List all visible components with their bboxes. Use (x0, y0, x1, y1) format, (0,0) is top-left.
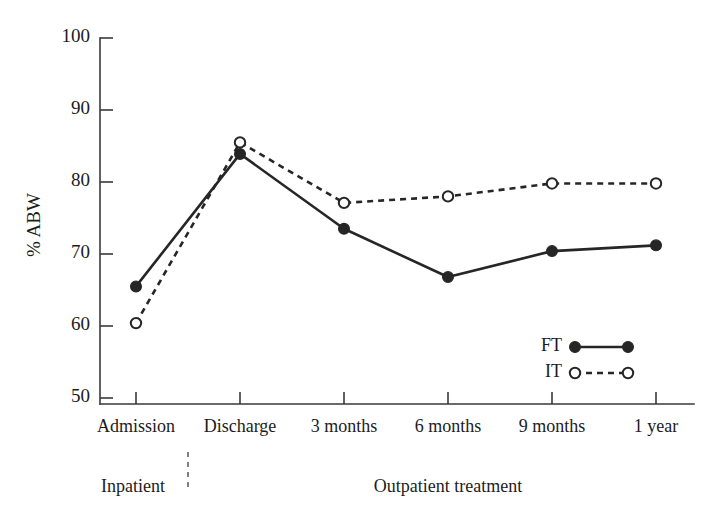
y-tick-label-70: 70 (71, 241, 90, 262)
legend-marker-ft-right (623, 342, 634, 353)
y-tick-label-60: 60 (71, 313, 90, 334)
chart-container: % ABW 100 90 80 70 60 50 Admission Disch… (0, 0, 701, 524)
x-tick-label-3-months: 3 months (311, 416, 378, 436)
x-tick-label-6-months: 6 months (415, 416, 482, 436)
x-tick-label-discharge: Discharge (204, 416, 277, 436)
data-point-it-1-year (651, 178, 661, 188)
data-point-ft-9-months (547, 246, 558, 257)
y-tick-label-100: 100 (62, 25, 91, 46)
y-tick-label-80: 80 (71, 169, 90, 190)
x-tick-label-9-months: 9 months (519, 416, 586, 436)
legend-marker-it-left (570, 368, 580, 378)
x-tick-label-admission: Admission (97, 416, 175, 436)
data-point-ft-admission (131, 281, 142, 292)
data-point-ft-6-months (443, 272, 454, 283)
phase-label-outpatient: Outpatient treatment (374, 476, 522, 496)
legend-marker-it-right (623, 368, 633, 378)
data-point-ft-discharge (235, 149, 246, 160)
x-tick-label-1-year: 1 year (634, 416, 678, 436)
line-chart: % ABW 100 90 80 70 60 50 Admission Disch… (0, 0, 701, 524)
series-line-ft (136, 154, 656, 286)
data-point-it-6-months (443, 191, 453, 201)
y-tick-label-50: 50 (71, 385, 90, 406)
legend-label-ft: FT (541, 335, 562, 355)
series-line-it (136, 142, 656, 323)
y-axis-title: % ABW (23, 193, 44, 257)
data-point-it-3-months (339, 198, 349, 208)
y-tick-label-90: 90 (71, 97, 90, 118)
data-point-ft-1-year (651, 240, 662, 251)
data-point-it-9-months (547, 178, 557, 188)
legend: FT IT (541, 335, 633, 381)
data-point-it-admission (131, 318, 141, 328)
data-point-ft-3-months (339, 223, 350, 234)
legend-label-it: IT (545, 361, 562, 381)
phase-label-inpatient: Inpatient (101, 476, 165, 496)
data-point-it-discharge (235, 137, 245, 147)
legend-marker-ft-left (570, 342, 581, 353)
